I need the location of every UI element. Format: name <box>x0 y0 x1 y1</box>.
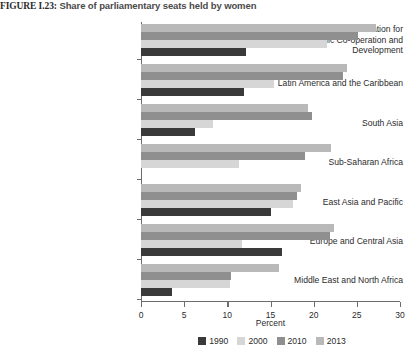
bar-2010 <box>141 232 330 239</box>
bar-2013 <box>141 104 308 111</box>
bar-group <box>141 64 400 95</box>
bar-2000 <box>141 160 239 167</box>
bar-group <box>141 104 400 135</box>
bar-group <box>141 224 400 255</box>
y-axis-tick <box>137 219 142 220</box>
y-axis-tick <box>137 59 142 60</box>
legend-label: 1990 <box>209 336 228 346</box>
bar-2013 <box>141 144 331 151</box>
bar-group <box>141 264 400 295</box>
legend-label: 2000 <box>248 336 267 346</box>
legend-item-2000[interactable]: 2000 <box>237 336 267 346</box>
bar-2013 <box>141 224 334 231</box>
bar-2013 <box>141 264 279 271</box>
bar-1990 <box>141 88 244 95</box>
bar-2000 <box>141 40 327 47</box>
legend-item-2013[interactable]: 2013 <box>316 336 346 346</box>
bar-1990 <box>141 128 195 135</box>
figure-number: FIGURE I.23: <box>0 1 57 11</box>
chart-legend: 1990200020102013 <box>141 334 403 348</box>
bar-2000 <box>141 280 230 287</box>
x-axis-tick <box>227 302 228 307</box>
legend-label: 2013 <box>327 336 346 346</box>
x-axis-tick <box>400 302 401 307</box>
bar-2010 <box>141 112 312 119</box>
bar-2000 <box>141 240 242 247</box>
bar-group <box>141 24 400 55</box>
bar-group <box>141 144 400 175</box>
x-axis-title: Percent <box>141 318 400 328</box>
bar-2010 <box>141 192 297 199</box>
x-axis-tick <box>314 302 315 307</box>
y-axis-tick <box>137 139 142 140</box>
legend-swatch-icon <box>237 337 245 345</box>
bar-2010 <box>141 32 358 39</box>
legend-label: 2010 <box>288 336 307 346</box>
bar-group <box>141 184 400 215</box>
legend-swatch-icon <box>277 337 285 345</box>
bar-2010 <box>141 72 343 79</box>
y-axis-tick <box>137 259 142 260</box>
y-axis-tick <box>137 179 142 180</box>
x-axis-tick <box>184 302 185 307</box>
y-axis-tick <box>137 99 142 100</box>
bar-1990 <box>141 288 172 295</box>
bar-2010 <box>141 152 305 159</box>
bar-1990 <box>141 48 246 55</box>
bar-2010 <box>141 272 231 279</box>
bar-1990 <box>141 208 271 215</box>
y-axis-tick <box>137 299 142 300</box>
bar-2000 <box>141 200 293 207</box>
bar-2013 <box>141 24 376 31</box>
x-axis-tick <box>271 302 272 307</box>
legend-swatch-icon <box>316 337 324 345</box>
bar-2013 <box>141 184 301 191</box>
chart-plot-area: 051015202530 <box>141 22 400 302</box>
legend-item-2010[interactable]: 2010 <box>277 336 307 346</box>
bar-1990 <box>141 248 282 255</box>
bar-2013 <box>141 64 347 71</box>
legend-swatch-icon <box>198 337 206 345</box>
x-axis-tick <box>357 302 358 307</box>
figure-title: FIGURE I.23: Share of parliamentary seat… <box>0 0 403 13</box>
figure-title-text: Share of parliamentary seats held by wom… <box>59 0 256 11</box>
x-axis-tick <box>141 302 142 307</box>
legend-item-1990[interactable]: 1990 <box>198 336 228 346</box>
bar-2000 <box>141 120 213 127</box>
bar-2000 <box>141 80 274 87</box>
